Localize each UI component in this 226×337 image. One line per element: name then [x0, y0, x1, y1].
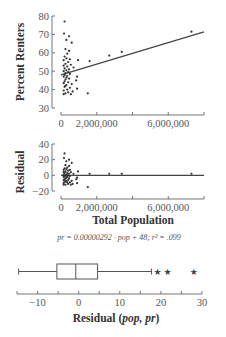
x-tick-label: 20	[156, 297, 167, 308]
residual-points	[63, 152, 193, 188]
data-point	[69, 175, 71, 177]
data-point	[66, 66, 68, 68]
data-point	[63, 76, 65, 78]
data-point	[71, 162, 73, 164]
data-point	[87, 92, 89, 94]
data-point	[72, 90, 74, 92]
data-point	[108, 54, 110, 56]
outlier-star: ★	[154, 267, 162, 277]
residual-x-axis-title: Total Population	[92, 214, 174, 227]
x-tick-label: −10	[29, 297, 45, 308]
data-point	[75, 79, 77, 81]
data-point	[63, 82, 65, 84]
data-point	[63, 65, 65, 67]
x-tick-label: 10	[115, 297, 126, 308]
y-tick-label: 40	[39, 139, 50, 150]
x-tick-label: 0	[76, 297, 81, 308]
x-tick-label: 6,000,000	[147, 202, 189, 213]
data-point	[121, 51, 123, 53]
data-point	[63, 152, 65, 154]
y-tick-label: 60	[39, 47, 50, 58]
data-point	[70, 184, 72, 186]
y-tick-label: 20	[39, 154, 50, 165]
data-point	[108, 173, 110, 175]
data-point	[87, 186, 89, 188]
data-point	[69, 87, 71, 89]
outlier-star: ★	[190, 267, 198, 277]
boxplot-x-axis-title: Residual (pop, pr)	[73, 312, 160, 325]
regression-equation: pr = 0.00000292 · pop + 48; r² = .099	[56, 233, 180, 242]
data-point	[67, 170, 69, 172]
boxplot-x-axis-title-suffix: )	[155, 312, 159, 325]
data-point	[68, 68, 70, 70]
data-point	[72, 173, 74, 175]
data-point	[68, 50, 70, 52]
outlier-star: ★	[163, 267, 171, 277]
chart-figure: 304050607080 02,000,0006,000,000 Percent…	[0, 0, 226, 337]
residual-plot-panel: −2002040 02,000,0006,000,000 Residual To…	[14, 139, 204, 243]
data-point	[89, 173, 91, 175]
y-tick-label: 30	[39, 103, 50, 114]
data-point	[69, 58, 71, 60]
scatter-y-axis-title: Percent Renters	[14, 22, 26, 101]
x-tick-label: 2,000,000	[76, 118, 118, 129]
data-point	[65, 160, 67, 162]
data-point	[70, 64, 72, 66]
iqr-box	[57, 264, 98, 279]
data-point	[65, 39, 67, 41]
data-point	[190, 31, 192, 33]
data-point	[70, 93, 72, 95]
data-point	[67, 81, 69, 83]
data-point	[63, 184, 65, 186]
data-point	[64, 48, 66, 50]
x-tick-label: 2,000,000	[76, 202, 118, 213]
data-point	[67, 71, 69, 73]
y-tick-label: 80	[39, 11, 50, 22]
data-point	[190, 173, 192, 175]
data-point	[76, 76, 78, 78]
data-point	[63, 32, 65, 34]
boxplot-x-axis-title-vars: pop, pr	[121, 312, 156, 325]
x-tick-label: 6,000,000	[147, 118, 189, 129]
data-point	[63, 70, 65, 72]
data-point	[67, 61, 69, 63]
data-point	[77, 170, 79, 172]
data-point	[63, 20, 65, 22]
data-point	[69, 181, 71, 183]
boxplot-panel: ★★★ −100102030 Residual (pop, pr)	[17, 264, 207, 325]
data-point	[71, 83, 73, 85]
data-point	[68, 165, 70, 167]
residual-x-axis: 02,000,0006,000,000	[58, 196, 204, 213]
data-point	[63, 89, 65, 91]
scatter-y-axis: 304050607080	[39, 11, 56, 114]
data-point	[63, 55, 65, 57]
data-point	[65, 69, 67, 71]
data-point	[68, 159, 70, 161]
data-point	[64, 164, 66, 166]
data-point	[68, 77, 70, 79]
data-point	[71, 42, 73, 44]
y-tick-label: 0	[44, 170, 49, 181]
data-point	[70, 171, 72, 173]
data-point	[68, 35, 70, 37]
x-tick-label: 30	[197, 297, 208, 308]
data-point	[63, 169, 65, 171]
data-point	[71, 180, 73, 182]
y-tick-label: 40	[39, 84, 50, 95]
boxplot-x-axis-title-prefix: Residual (	[73, 312, 123, 325]
data-point	[65, 57, 67, 59]
x-tick-label: 0	[58, 118, 63, 129]
regression-line	[61, 32, 204, 75]
scatter-plot-panel: 304050607080 02,000,0006,000,000 Percent…	[14, 11, 204, 130]
data-point	[63, 93, 65, 95]
data-point	[77, 59, 79, 61]
data-point	[76, 182, 78, 184]
y-tick-label: 70	[39, 29, 50, 40]
data-point	[121, 173, 123, 175]
data-point	[67, 91, 69, 93]
scatter-points	[63, 20, 193, 95]
y-tick-label: −20	[33, 186, 49, 197]
data-point	[63, 67, 65, 69]
data-point	[63, 86, 65, 88]
x-tick-label: 0	[58, 202, 63, 213]
